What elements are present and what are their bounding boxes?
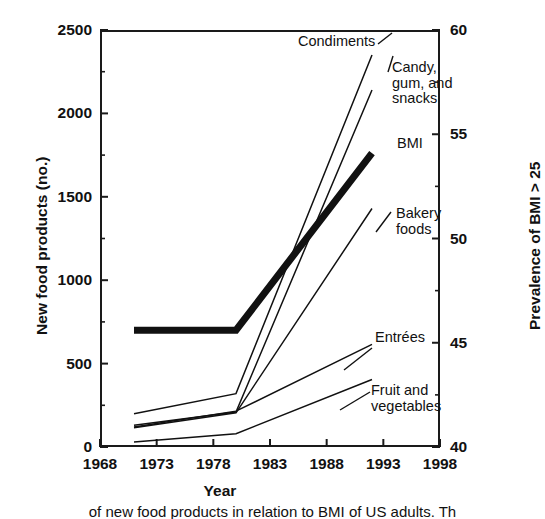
ytick-right-label-55: 55 [450, 126, 467, 142]
ytick-label-2000: 2000 [33, 106, 92, 122]
series-line-entr-es [134, 344, 372, 427]
label-leader-line [378, 33, 392, 44]
xtick-label-1993: 1993 [366, 456, 400, 472]
series-label-entrees: Entrées [375, 330, 425, 346]
series-label-bakery: Bakery foods [396, 206, 441, 237]
xtick-label-1968: 1968 [83, 456, 117, 472]
series-label-fruit: Fruit and vegetables [371, 383, 441, 414]
figure-container: 0 500 1000 1500 2000 2500 40 45 50 55 60… [0, 0, 545, 519]
y-axis-title-left: New food products (no.) [34, 136, 50, 356]
label-leader-line [376, 212, 391, 232]
series-line-condiments [134, 55, 372, 414]
series-line-candy-gum-and-snacks [134, 90, 372, 425]
series-line-bakery-foods [134, 208, 372, 427]
ytick-right-label-40: 40 [450, 439, 467, 455]
series-line-bmi [134, 153, 372, 330]
x-axis-title: Year [0, 483, 440, 499]
ytick-right-label-45: 45 [450, 335, 467, 351]
ytick-right-label-50: 50 [450, 231, 467, 247]
ytick-right-label-60: 60 [450, 22, 467, 38]
xtick-label-1973: 1973 [139, 456, 173, 472]
series-label-candy: Candy, gum, and snacks [392, 60, 452, 107]
ytick-label-500: 500 [40, 356, 92, 372]
label-leader-line [340, 392, 370, 410]
series-label-condiments: Condiments [298, 34, 375, 50]
series-lines [134, 33, 393, 442]
series-label-bmi: BMI [397, 136, 423, 152]
y-axis-title-right: Prevalence of BMI > 25 [527, 131, 543, 361]
ytick-label-0: 0 [40, 439, 92, 455]
xtick-label-1988: 1988 [309, 456, 343, 472]
xtick-label-1978: 1978 [196, 456, 230, 472]
ytick-label-2500: 2500 [33, 22, 92, 38]
xtick-label-1983: 1983 [253, 456, 287, 472]
figure-caption: of new food products in relation to BMI … [0, 503, 545, 519]
xtick-label-1998: 1998 [423, 456, 457, 472]
series-line-fruit-and-vegetables [134, 379, 372, 442]
